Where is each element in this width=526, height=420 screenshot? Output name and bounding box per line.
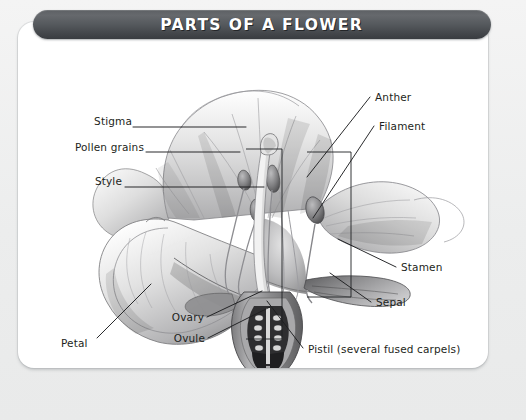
flower-illustration <box>18 22 488 368</box>
page-title: PARTS OF A FLOWER <box>161 15 364 34</box>
label-anther: Anther <box>375 91 411 103</box>
label-style: Style <box>38 175 122 187</box>
ovary <box>232 292 303 368</box>
illustration-stage <box>18 22 488 368</box>
label-ovary: Ovary <box>148 311 204 323</box>
label-ovule: Ovule <box>148 332 205 344</box>
title-banner: PARTS OF A FLOWER <box>33 10 491 39</box>
label-petal: Petal <box>61 337 88 349</box>
label-sepal: Sepal <box>376 296 406 308</box>
page-background: PARTS OF A FLOWER <box>0 0 526 420</box>
label-filament: Filament <box>379 120 425 132</box>
label-stigma: Stigma <box>38 115 132 127</box>
label-stamen: Stamen <box>401 261 442 273</box>
label-pollen-grains: Pollen grains <box>28 141 144 153</box>
label-pistil: Pistil (several fused carpels) <box>308 343 460 355</box>
